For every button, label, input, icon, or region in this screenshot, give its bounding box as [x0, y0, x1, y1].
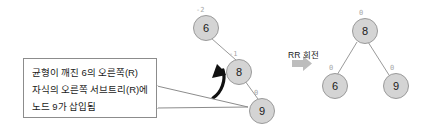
tree-node-after-9[interactable]: 9	[383, 73, 409, 99]
tree-node-before-8[interactable]: 8	[226, 59, 252, 85]
balance-factor-before-8: -1	[229, 50, 237, 58]
tree-node-before-6[interactable]: 6	[193, 15, 219, 41]
avl-rotation-diagram: -2 6 -1 8 0 9 0 8 0 6 0 9 RR 회전 균형이 깨진 6…	[0, 0, 424, 136]
tree-node-after-8[interactable]: 8	[352, 18, 378, 44]
rr-rotation-label: RR 회전	[288, 48, 319, 60]
balance-factor-before-6: -2	[196, 6, 204, 14]
callout-line-3: 노드 9가 삽입됨	[32, 99, 96, 113]
callout-line-2: 자식의 오른쪽 서브트리(R)에	[32, 82, 148, 96]
balance-factor-after-6: 0	[329, 64, 333, 72]
balance-factor-before-9: 0	[254, 89, 258, 97]
balance-factor-after-9: 0	[390, 64, 394, 72]
edge-8-to-6	[337, 42, 357, 75]
tree-node-before-9[interactable]: 9	[249, 98, 275, 124]
curved-counterclockwise-arrow-icon	[212, 64, 226, 98]
callout-line-1: 균형이 깨진 6의 오른쪽(R)	[32, 65, 138, 79]
tree-node-after-6[interactable]: 6	[322, 73, 348, 99]
edge-8-to-9-after	[368, 42, 389, 75]
balance-factor-after-8: 0	[359, 9, 363, 17]
callout-pointer-icon	[157, 86, 248, 108]
explanation-callout: 균형이 깨진 6의 오른쪽(R) 자식의 오른쪽 서브트리(R)에 노드 9가 …	[23, 58, 157, 118]
